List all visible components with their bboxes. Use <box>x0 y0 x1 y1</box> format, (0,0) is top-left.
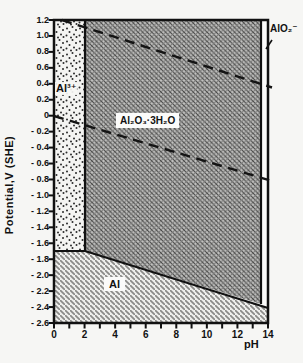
y-tick-label: - 0.6 <box>15 158 49 169</box>
y-tick-label: - 2.4 <box>15 302 49 313</box>
y-tick-label: - 2.2 <box>15 286 49 297</box>
y-axis-title: Potential,V (SHE) <box>3 100 17 270</box>
y-tick-label: 0.2 <box>15 94 49 105</box>
label-oxide: Al₂O₃·3H₂O <box>116 113 179 128</box>
label-al-metal: Al <box>104 277 125 291</box>
y-tick-label: 1.2 <box>15 15 49 26</box>
y-tick-label: 0.4 <box>15 78 49 89</box>
y-tick-label: 1.0 <box>15 30 49 41</box>
y-tick-label: 0.6 <box>15 62 49 73</box>
x-tick-label: 2 <box>72 329 98 340</box>
label-al3plus: Al³⁺ <box>55 82 77 95</box>
x-axis-title: pH <box>244 338 259 350</box>
x-tick-label: 10 <box>194 329 220 340</box>
y-tick-label: - 0.4 <box>15 142 49 153</box>
label-alo2: AlO₂⁻ <box>270 23 298 34</box>
y-tick-label: 0 <box>15 110 49 121</box>
y-tick-label: - 0.2 <box>15 126 49 137</box>
y-tick-label: - 1.6 <box>15 238 49 249</box>
y-tick-label: - 0.8 <box>15 174 49 185</box>
y-tick-label: 0.8 <box>15 46 49 57</box>
y-tick-label: - 1.8 <box>15 254 49 265</box>
y-tick-label: - 1.0 <box>15 190 49 201</box>
y-tick-label: - 1.2 <box>15 206 49 217</box>
region-al3plus <box>54 20 85 251</box>
x-tick-label: 0 <box>41 329 67 340</box>
x-tick-label: 8 <box>163 329 189 340</box>
y-tick-label: - 2.0 <box>15 270 49 281</box>
x-tick-label: 4 <box>102 329 128 340</box>
pourbaix-diagram-figure: 1.2 1.0 0.8 0.6 0.4 0.2 0 - 0.2 - 0.4 - … <box>0 0 303 363</box>
x-tick-label: 6 <box>133 329 159 340</box>
y-tick-label: - 1.4 <box>15 222 49 233</box>
y-tick-label: - 2.6 <box>15 318 49 329</box>
